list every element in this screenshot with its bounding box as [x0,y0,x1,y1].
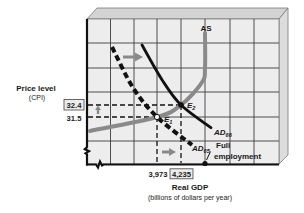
full-employment-point [202,161,207,166]
plot-area [87,19,279,164]
y-tick-32-4: 32.4 [67,101,83,110]
y-axis-title: Price level [16,84,56,93]
frame-top-face [87,8,288,19]
frame-right-face [279,8,288,164]
e2-point [178,102,184,108]
full-employment-label-line1: Full [216,141,230,150]
x-tick-3973: 3,973 [148,170,167,179]
full-employment-label-line2: employment [214,152,261,161]
ad65-label-main: AD [191,144,204,153]
as-ad-chart: AS AD66 AD65 E1 E2 Full employment Price… [0,0,304,213]
as-label: AS [200,24,212,33]
e1-point [154,114,159,119]
y-tick-31-5: 31.5 [67,114,83,123]
e1-label-subscript: 1 [169,119,172,125]
ad66-label-main: AD [213,128,226,137]
x-tick-4235: 4,235 [172,170,192,179]
ad66-label-subscript: 66 [226,132,233,138]
ad65-label-subscript: 65 [204,148,211,154]
x-axis-note: (billions of dollars per year) [148,194,232,202]
x-axis-title: Real GDP [172,183,209,192]
y-axis-note: (CPI) [29,94,45,102]
